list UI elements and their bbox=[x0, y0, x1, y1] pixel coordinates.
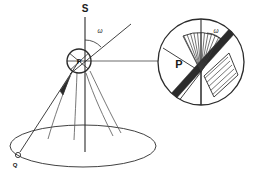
main-view-group: S P Q ω bbox=[10, 3, 159, 168]
figure-root: S P Q ω bbox=[0, 0, 255, 179]
label-angle-omega-inset: ω bbox=[213, 27, 218, 34]
label-point-p-inset: P bbox=[175, 58, 182, 70]
field-line-center-left bbox=[74, 73, 77, 140]
angle-arc-main bbox=[85, 40, 101, 47]
cone-generator-q-to-p bbox=[20, 61, 79, 152]
inset-angle-dot-marker bbox=[225, 35, 229, 39]
field-line-left bbox=[48, 72, 72, 139]
label-point-p-main: P bbox=[77, 58, 82, 65]
label-point-q: Q bbox=[13, 162, 18, 168]
arrowhead-toward-p bbox=[60, 76, 70, 95]
inset-view-group: P ω bbox=[158, 19, 244, 105]
field-line-right bbox=[90, 71, 121, 133]
label-angle-omega-main: ω bbox=[97, 27, 102, 34]
diagram-canvas: S P Q ω bbox=[0, 0, 255, 179]
base-ellipse bbox=[10, 125, 156, 167]
label-axis-s: S bbox=[82, 3, 89, 14]
